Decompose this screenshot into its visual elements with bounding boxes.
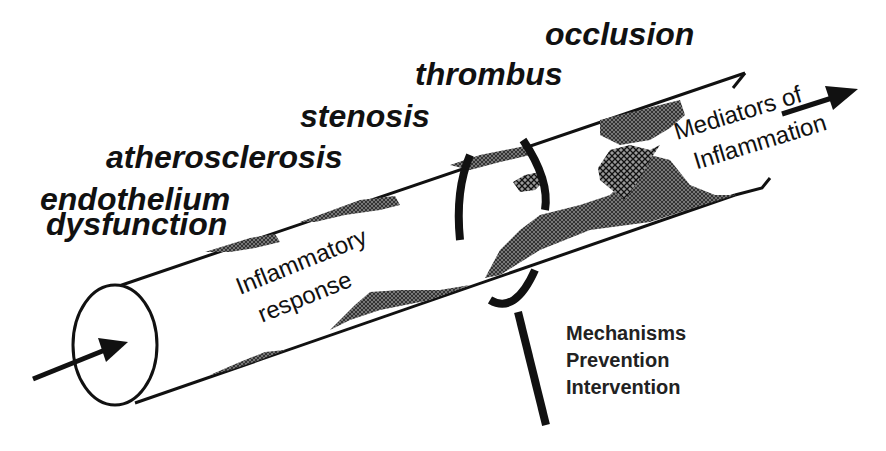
vessel-diagram: endothelium dysfunction atherosclerosis … — [0, 0, 886, 451]
label-prevention: Prevention — [566, 349, 669, 371]
mpi-labels: Mechanisms Prevention Intervention — [566, 322, 686, 398]
label-mechanisms: Mechanisms — [566, 322, 686, 344]
stage-occlusion: occlusion — [545, 16, 694, 52]
stage-atherosclerosis: atherosclerosis — [106, 139, 343, 175]
stage-thrombus: thrombus — [415, 56, 563, 92]
stage-dysfunction: dysfunction — [46, 206, 227, 242]
label-intervention: Intervention — [566, 376, 680, 398]
pointer-line — [518, 312, 546, 425]
stage-stenosis: stenosis — [300, 98, 430, 134]
